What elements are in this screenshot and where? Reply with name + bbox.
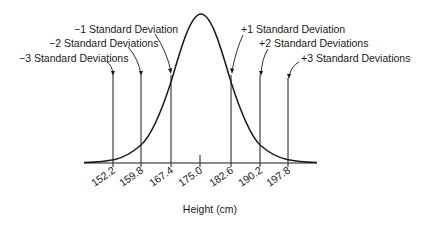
minus3-arrowhead xyxy=(111,71,115,76)
x-axis-title: Height (cm) xyxy=(183,203,237,215)
label-minus2: −2 Standard Deviations xyxy=(49,37,158,49)
tick-label-175-0: 175.0 xyxy=(176,164,205,189)
label-minus3: −3 Standard Deviations xyxy=(19,52,128,64)
plus1-arrowhead xyxy=(230,68,234,74)
label-plus1: +1 Standard Deviation xyxy=(241,23,345,35)
label-plus3: +3 Standard Deviations xyxy=(301,52,410,64)
plus2-leader xyxy=(261,49,268,74)
normal-distribution-diagram: −3 Standard Deviations −2 Standard Devia… xyxy=(0,0,423,227)
plus1-leader xyxy=(232,35,243,71)
label-minus1: −1 Standard Deviation xyxy=(74,23,178,35)
minus2-arrowhead xyxy=(139,71,143,76)
tick-label-152-2: 152.2 xyxy=(89,164,118,189)
tick-label-197-8: 197.8 xyxy=(264,164,293,189)
label-plus2: +2 Standard Deviations xyxy=(259,37,368,49)
minus2-leader xyxy=(128,47,141,74)
tick-label-182-6: 182.6 xyxy=(207,164,236,189)
tick-label-159-8: 159.8 xyxy=(117,164,146,189)
tick-label-167-4: 167.4 xyxy=(147,164,176,189)
tick-label-190-2: 190.2 xyxy=(236,164,265,189)
minus1-arrowhead xyxy=(168,68,172,74)
